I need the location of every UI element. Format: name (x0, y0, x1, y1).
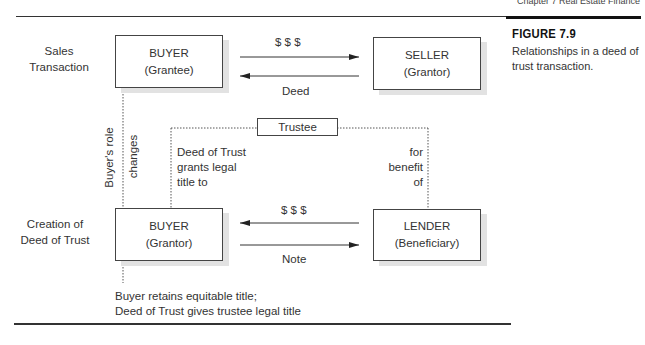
for-benefit-label: for benefit of (370, 145, 423, 190)
buyer-grantee-box: BUYER (Grantee) (115, 35, 223, 88)
box-role: (Grantee) (144, 62, 193, 79)
row-label-line: Creation of (10, 216, 100, 232)
buyer-grantor-box: BUYER (Grantor) (115, 208, 223, 261)
loan-note-label: Note (282, 252, 306, 267)
box-title: LENDER (404, 218, 451, 235)
footer-note: Buyer retains equitable title; Deed of T… (115, 289, 301, 319)
trustee-box: Trustee (257, 118, 338, 136)
label-line: title to (177, 175, 246, 190)
label-line: grants legal (177, 160, 246, 175)
role-change-label-1: Buyer's role (102, 123, 117, 193)
seller-grantor-box: SELLER (Grantor) (373, 37, 481, 90)
deed-grants-label: Deed of Trust grants legal title to (177, 145, 246, 190)
label-line: for (370, 145, 423, 160)
row-label-creation: Creation of Deed of Trust (10, 216, 100, 248)
box-role: (Grantor) (404, 64, 451, 81)
lender-beneficiary-box: LENDER (Beneficiary) (373, 209, 481, 261)
box-title: SELLER (405, 47, 449, 64)
row-label-sales: Sales Transaction (14, 43, 104, 75)
label-line: benefit (370, 160, 423, 175)
label-line: of (370, 175, 423, 190)
row-label-line: Deed of Trust (10, 232, 100, 248)
row-label-line: Sales (14, 43, 104, 59)
footer-line: Buyer retains equitable title; (115, 289, 301, 304)
bottom-rule (14, 323, 511, 325)
footer-line: Deed of Trust gives trustee legal title (115, 304, 301, 319)
box-title: BUYER (149, 45, 189, 62)
box-role: (Grantor) (146, 235, 193, 252)
box-title: BUYER (149, 218, 189, 235)
row-label-line: Transaction (14, 59, 104, 75)
sales-money-label: $ $ $ (275, 35, 301, 50)
loan-money-label: $ $ $ (281, 203, 307, 218)
role-change-label-2: changes (126, 122, 141, 192)
box-role: (Beneficiary) (395, 235, 460, 252)
label-line: Deed of Trust (177, 145, 246, 160)
sales-deed-label: Deed (282, 84, 310, 99)
